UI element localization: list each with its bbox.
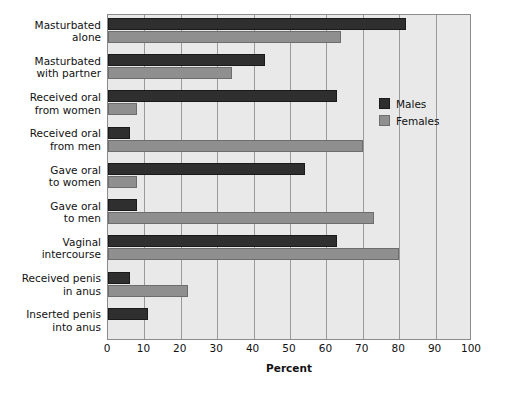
plot-area [107, 14, 471, 340]
x-tick-label: 70 [355, 342, 368, 354]
category-label: Gave oralto women [0, 164, 101, 189]
bar-males [108, 163, 305, 175]
x-tick-label: 30 [210, 342, 223, 354]
bar-group [108, 15, 470, 51]
category-label: Gave oralto men [0, 200, 101, 225]
category-label: Masturbatedwith partner [0, 55, 101, 80]
value-axis-ticks: 0102030405060708090100 [107, 342, 471, 358]
bar-chart: MasturbatedaloneMasturbatedwith partnerR… [0, 0, 509, 395]
bar-group [108, 269, 470, 305]
bar-females [108, 176, 137, 188]
bar-males [108, 272, 130, 284]
bar-females [108, 31, 341, 43]
bar-males [108, 308, 148, 320]
bar-group [108, 160, 470, 196]
x-tick-label: 100 [461, 342, 481, 354]
bar-females [108, 140, 363, 152]
bar-females [108, 285, 188, 297]
legend-label-females: Females [396, 115, 439, 127]
legend-swatch-females-icon [379, 115, 390, 126]
bar-females [108, 248, 399, 260]
category-label: Received penisin anus [0, 272, 101, 297]
x-axis-title: Percent [107, 362, 471, 374]
legend-label-males: Males [396, 98, 426, 110]
category-label: Received oralfrom women [0, 91, 101, 116]
category-label: Received oralfrom men [0, 127, 101, 152]
category-axis-labels: MasturbatedaloneMasturbatedwith partnerR… [0, 14, 101, 340]
x-tick-label: 20 [173, 342, 186, 354]
bar-males [108, 90, 337, 102]
x-tick-label: 50 [282, 342, 295, 354]
x-tick-label: 10 [137, 342, 150, 354]
bar-males [108, 235, 337, 247]
legend-item-females: Females [379, 113, 439, 128]
legend-item-males: Males [379, 96, 439, 111]
bar-females [108, 67, 232, 79]
x-tick-label: 40 [246, 342, 259, 354]
category-label: Inserted penisinto anus [0, 308, 101, 333]
x-tick-label: 90 [428, 342, 441, 354]
bar-females [108, 212, 374, 224]
category-label: Vaginalintercourse [0, 236, 101, 261]
bar-males [108, 127, 130, 139]
legend-swatch-males-icon [379, 98, 390, 109]
bar-males [108, 54, 265, 66]
bar-group [108, 196, 470, 232]
bar-group [108, 232, 470, 268]
bar-females [108, 103, 137, 115]
bar-group [108, 51, 470, 87]
bar-males [108, 199, 137, 211]
x-tick-label: 0 [104, 342, 111, 354]
x-tick-label: 60 [319, 342, 332, 354]
x-tick-label: 80 [392, 342, 405, 354]
chart-legend: Males Females [379, 96, 439, 130]
bar-males [108, 18, 406, 30]
category-label: Masturbatedalone [0, 19, 101, 44]
bar-group [108, 305, 470, 340]
